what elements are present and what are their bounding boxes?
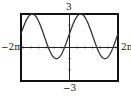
x-max-label: 2π bbox=[121, 43, 131, 52]
x-min-label: −2π bbox=[1, 43, 20, 52]
y-min-label: −3 bbox=[63, 84, 76, 93]
y-max-label: 3 bbox=[66, 3, 72, 12]
